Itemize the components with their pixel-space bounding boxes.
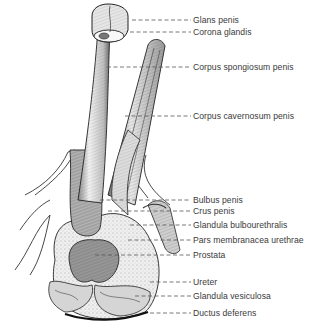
anatomical-illustration (0, 0, 320, 326)
label-corpus-cavernosum-penis: Corpus cavernosum penis (193, 111, 294, 121)
label-crus-penis: Crus penis (193, 206, 235, 216)
prostate-shape (69, 240, 119, 283)
label-glandula-bulbourethralis: Glandula bulbourethralis (193, 220, 287, 230)
label-prostata: Prostata (193, 250, 225, 260)
label-glandula-vesiculosa: Glandula vesiculosa (193, 291, 271, 301)
label-pars-membranacea-urethrae: Pars membranacea urethrae (193, 235, 304, 245)
glans-penis-shape (92, 4, 128, 42)
label-bulbus-penis: Bulbus penis (193, 195, 243, 205)
label-ductus-deferens: Ductus deferens (193, 308, 256, 318)
label-corpus-spongiosum-penis: Corpus spongiosum penis (193, 62, 294, 72)
corpus-spongiosum-shape (78, 28, 110, 203)
label-glans-penis: Glans penis (193, 15, 239, 25)
label-ureter: Ureter (193, 277, 217, 287)
label-corona-glandis: Corona glandis (193, 27, 252, 37)
